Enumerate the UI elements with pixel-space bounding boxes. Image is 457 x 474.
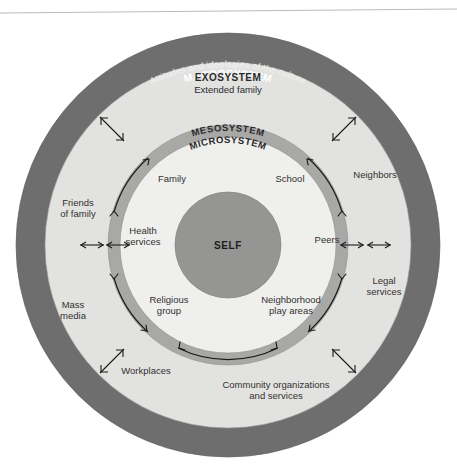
node-friends-of-family: Friends of family xyxy=(60,197,96,219)
ecological-systems-diagram: MACROSYSTEM Attitudes and ideologies of … xyxy=(0,0,457,474)
node-mass-media: Mass media xyxy=(60,299,87,321)
node-health-services-line1: Health xyxy=(129,225,156,236)
node-legal-services-line1: Legal xyxy=(372,275,395,286)
self-label: SELF xyxy=(214,240,242,251)
node-friends-of-family-line2: of family xyxy=(60,208,96,219)
node-peers: Peers xyxy=(315,234,340,245)
node-neighborhood-play-areas-line2: play areas xyxy=(269,305,313,316)
node-neighborhood-play-areas: Neighborhood play areas xyxy=(261,294,321,316)
node-religious-group-line2: group xyxy=(157,305,181,316)
node-mass-media-line1: Mass xyxy=(62,299,85,310)
node-legal-services-line2: services xyxy=(367,286,402,297)
node-mass-media-line2: media xyxy=(60,310,87,321)
node-workplaces: Workplaces xyxy=(121,365,171,376)
node-community-organizations-line2: and services xyxy=(249,390,303,401)
ring-subtitle-exosystem: Extended family xyxy=(194,84,262,95)
node-health-services-line2: services xyxy=(126,236,161,247)
node-health-services: Health services xyxy=(126,225,161,247)
node-neighborhood-play-areas-line1: Neighborhood xyxy=(261,294,321,305)
node-school: School xyxy=(275,173,304,184)
page-rule xyxy=(0,9,457,13)
node-friends-of-family-line1: Friends xyxy=(62,197,94,208)
ring-title-exosystem: EXOSYSTEM xyxy=(195,72,262,83)
node-community-organizations-line1: Community organizations xyxy=(222,379,329,390)
diagram-canvas: MACROSYSTEM Attitudes and ideologies of … xyxy=(0,0,457,474)
node-family: Family xyxy=(158,173,186,184)
node-neighbors: Neighbors xyxy=(353,169,397,180)
node-religious-group-line1: Religious xyxy=(149,294,188,305)
